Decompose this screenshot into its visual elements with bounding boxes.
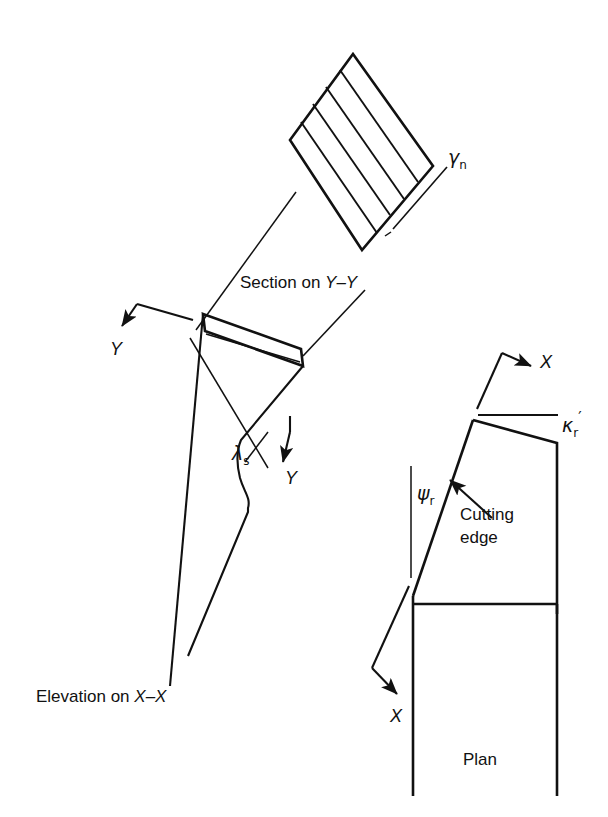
- cutting-edge-label-line1: Cutting: [460, 505, 514, 524]
- section-hatch-lines: [301, 70, 418, 233]
- section-corner-tick: [385, 232, 391, 236]
- hatch-line: [340, 70, 418, 182]
- axis-x-upper-label: X: [539, 352, 553, 372]
- hatch-line: [313, 104, 390, 215]
- elevation-lambda-construction-line: [190, 338, 268, 468]
- section-rectangle-outline: [290, 54, 433, 250]
- figure-canvas: γn Section on Y–Y λs E: [0, 0, 608, 817]
- axis-x-lower-shaft: [372, 586, 409, 668]
- section-caption-leader-line: [303, 290, 365, 356]
- section-view-group: γn: [290, 54, 467, 250]
- section-caption-group: Section on Y–Y: [240, 273, 365, 356]
- gamma-n-label: γn: [448, 146, 467, 172]
- axis-y-lower-arrow-shaft: [283, 432, 290, 462]
- axis-x-upper-arrow-shaft: [502, 353, 531, 366]
- hatch-line: [326, 87, 404, 199]
- plan-view-group: κr′ ψr Cutting edge Plan: [411, 409, 582, 796]
- axis-y-lower-label: Y: [285, 468, 299, 488]
- elevation-view-group: λs Elevation on X–X: [36, 192, 303, 706]
- elevation-right-flank-profile: [188, 366, 303, 656]
- axis-y-upper-elbow: [137, 304, 193, 320]
- lambda-s-label: λs: [231, 442, 250, 468]
- axis-x-lower-arrow-shaft: [372, 668, 397, 694]
- axis-y-upper-label: Y: [110, 339, 124, 359]
- elevation-rake-projection-line: [206, 334, 300, 362]
- axis-x-upper-shaft: [477, 353, 502, 409]
- cutting-edge-label-line2: edge: [460, 528, 498, 547]
- kappa-r-prime-label: κr′: [562, 409, 582, 440]
- psi-r-label: ψr: [417, 482, 435, 508]
- axis-y-upper-arrow-shaft: [122, 304, 137, 326]
- gamma-n-leader-line: [393, 167, 447, 229]
- plan-caption: Plan: [463, 750, 497, 769]
- elevation-caption: Elevation on X–X: [36, 687, 167, 706]
- cutting-tool-geometry-figure: γn Section on Y–Y λs E: [0, 0, 608, 817]
- elevation-upper-construction-line: [196, 192, 296, 330]
- axis-x-lower-label: X: [389, 706, 403, 726]
- section-caption: Section on Y–Y: [240, 273, 359, 292]
